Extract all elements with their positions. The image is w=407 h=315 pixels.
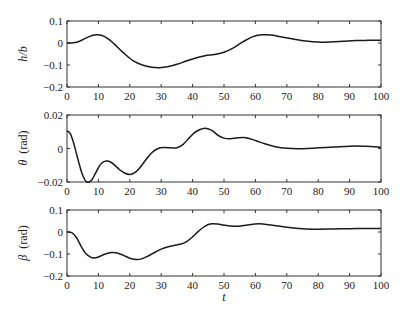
y-tick-label: 0.02 bbox=[44, 109, 63, 121]
x-tick-label: 90 bbox=[344, 279, 356, 291]
y-tick-labels: 0.020−0.02 bbox=[38, 109, 64, 188]
x-tick-label: 30 bbox=[156, 90, 168, 102]
y-tick-label: −0.02 bbox=[38, 176, 63, 188]
x-tick-label: 40 bbox=[187, 279, 199, 291]
x-tick-label: 40 bbox=[187, 90, 199, 102]
x-tick-label: 20 bbox=[124, 279, 136, 291]
x-tick-label: 80 bbox=[313, 90, 325, 102]
y-axis-symbol: θ bbox=[16, 160, 30, 166]
x-axis-label: t bbox=[222, 290, 226, 304]
y-tick-label: −0.2 bbox=[43, 270, 63, 282]
figure: 0.10−0.1−0.2 0102030405060708090100 h/b … bbox=[0, 0, 407, 315]
y-axis-unit: (rad) bbox=[16, 225, 30, 248]
x-tick-label: 100 bbox=[373, 279, 390, 291]
tick-marks bbox=[67, 210, 381, 276]
y-tick-label: 0 bbox=[58, 143, 64, 155]
x-tick-label: 40 bbox=[187, 185, 199, 197]
y-tick-labels: 0.10−0.1−0.2 bbox=[43, 15, 63, 93]
tick-marks bbox=[67, 115, 381, 182]
plot-frame bbox=[67, 115, 381, 182]
line-series bbox=[67, 224, 381, 260]
tick-marks bbox=[67, 21, 381, 87]
x-tick-label: 70 bbox=[281, 185, 293, 197]
y-tick-labels: 0.10−0.1−0.2 bbox=[43, 204, 63, 282]
x-tick-labels: 0102030405060708090100 bbox=[64, 90, 390, 102]
line-series bbox=[67, 128, 381, 182]
y-axis-label: h/b bbox=[16, 46, 30, 61]
x-tick-label: 20 bbox=[124, 185, 136, 197]
y-axis-symbol: β bbox=[16, 255, 30, 262]
y-tick-label: −0.1 bbox=[43, 59, 63, 71]
y-axis-label: θ (rad) bbox=[16, 130, 30, 165]
y-tick-label: 0.1 bbox=[49, 204, 63, 216]
x-tick-label: 100 bbox=[373, 90, 390, 102]
y-axis-label: β (rad) bbox=[16, 225, 30, 261]
x-tick-label: 50 bbox=[219, 90, 231, 102]
x-tick-label: 30 bbox=[156, 185, 168, 197]
x-tick-label: 10 bbox=[93, 279, 105, 291]
x-tick-label: 60 bbox=[250, 90, 262, 102]
y-tick-label: 0.1 bbox=[49, 15, 63, 27]
x-tick-label: 0 bbox=[64, 90, 70, 102]
x-tick-labels: 0102030405060708090100 bbox=[64, 279, 390, 291]
x-tick-label: 80 bbox=[313, 279, 325, 291]
x-tick-label: 70 bbox=[281, 279, 293, 291]
x-tick-label: 30 bbox=[156, 279, 168, 291]
y-tick-label: 0 bbox=[58, 226, 64, 238]
panel-h-over-b: 0.10−0.1−0.2 0102030405060708090100 h/b bbox=[16, 15, 390, 102]
x-tick-label: 0 bbox=[64, 185, 70, 197]
panel-beta: 0.10−0.1−0.2 0102030405060708090100 β (r… bbox=[16, 204, 390, 304]
y-tick-label: −0.1 bbox=[43, 248, 63, 260]
x-tick-label: 20 bbox=[124, 90, 136, 102]
panel-theta: 0.020−0.02 0102030405060708090100 θ (rad… bbox=[16, 109, 390, 197]
x-tick-labels: 0102030405060708090100 bbox=[64, 185, 390, 197]
y-tick-label: 0 bbox=[58, 37, 64, 49]
y-axis-unit: (rad) bbox=[16, 130, 30, 153]
plot-frame bbox=[67, 21, 381, 87]
x-tick-label: 10 bbox=[93, 185, 105, 197]
plot-frame bbox=[67, 210, 381, 276]
x-tick-label: 60 bbox=[250, 185, 262, 197]
y-tick-label: −0.2 bbox=[43, 81, 63, 93]
x-tick-label: 60 bbox=[250, 279, 262, 291]
x-tick-label: 10 bbox=[93, 90, 105, 102]
x-tick-label: 90 bbox=[344, 90, 356, 102]
x-tick-label: 90 bbox=[344, 185, 356, 197]
x-tick-label: 50 bbox=[219, 185, 231, 197]
x-tick-label: 100 bbox=[373, 185, 390, 197]
x-tick-label: 0 bbox=[64, 279, 70, 291]
line-series bbox=[67, 35, 381, 68]
x-tick-label: 80 bbox=[313, 185, 325, 197]
x-tick-label: 70 bbox=[281, 90, 293, 102]
